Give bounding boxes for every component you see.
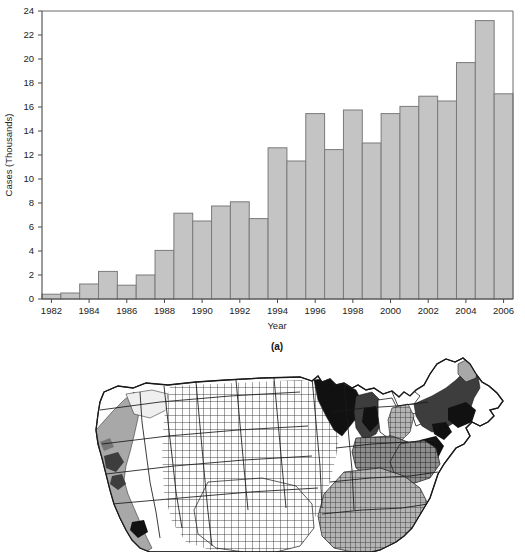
bar — [268, 148, 287, 299]
bar — [80, 284, 99, 299]
bar — [494, 94, 513, 299]
x-tick-label: 2006 — [493, 305, 514, 316]
x-tick-label: 2004 — [455, 305, 476, 316]
panel-a-caption: (a) — [271, 341, 283, 352]
bar — [381, 114, 400, 299]
bar — [456, 63, 475, 299]
y-tick-label: 10 — [23, 173, 34, 184]
x-tick-label: 1998 — [342, 305, 363, 316]
bar — [438, 101, 457, 299]
x-tick-label: 1992 — [229, 305, 250, 316]
y-tick-label: 12 — [23, 149, 34, 160]
y-tick-label: 0 — [29, 293, 34, 304]
bar — [136, 275, 155, 299]
bar-chart: 024681012141618202224 198219841986198819… — [0, 0, 525, 356]
y-tick-label: 14 — [23, 125, 34, 136]
y-tick-label: 2 — [29, 269, 34, 280]
y-tick-label: 22 — [23, 29, 34, 40]
bar — [42, 294, 61, 299]
y-tick-label: 24 — [23, 5, 34, 16]
y-tick-label: 6 — [29, 221, 34, 232]
y-tick-label: 20 — [23, 53, 34, 64]
bar — [362, 143, 381, 299]
y-tick-label: 8 — [29, 197, 34, 208]
bar — [419, 96, 438, 299]
x-tick-label: 1996 — [305, 305, 326, 316]
x-axis-title: Year — [267, 320, 286, 331]
bar — [193, 221, 212, 299]
bar — [212, 206, 231, 299]
bar — [155, 250, 174, 299]
us-county-choropleth-map — [0, 352, 525, 552]
bar — [400, 106, 419, 299]
x-tick-label: 1982 — [41, 305, 62, 316]
bar — [230, 202, 249, 299]
bar — [61, 293, 80, 299]
x-tick-label: 1984 — [79, 305, 100, 316]
bar — [343, 110, 362, 299]
bar — [117, 285, 136, 299]
map-body — [96, 358, 503, 552]
bar — [325, 150, 344, 299]
bar — [475, 21, 494, 299]
x-tick-label: 1990 — [192, 305, 213, 316]
x-tick-label: 1994 — [267, 305, 288, 316]
y-tick-label: 18 — [23, 77, 34, 88]
y-tick-label: 16 — [23, 101, 34, 112]
bar — [306, 114, 325, 299]
bar — [249, 219, 268, 299]
figure-panel-b — [0, 352, 525, 552]
y-axis-title: Cases (Thousands) — [3, 114, 14, 197]
bar — [174, 213, 193, 299]
bar — [287, 161, 306, 299]
x-axis-ticks: 1982198419861988199019921994199619982000… — [41, 299, 514, 316]
figure-panel-a: 024681012141618202224 198219841986198819… — [0, 0, 525, 356]
y-axis-ticks: 024681012141618202224 — [23, 5, 42, 304]
x-tick-label: 1986 — [116, 305, 137, 316]
x-tick-label: 1988 — [154, 305, 175, 316]
x-tick-label: 2002 — [418, 305, 439, 316]
x-tick-label: 2000 — [380, 305, 401, 316]
y-tick-label: 4 — [29, 245, 34, 256]
bar — [99, 271, 118, 299]
